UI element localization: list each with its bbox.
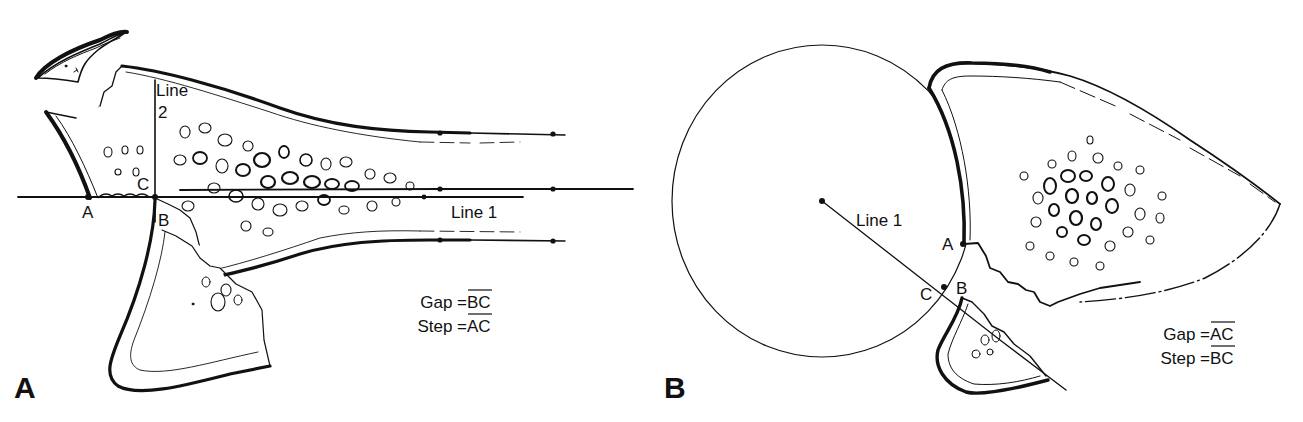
point-c-marker-b: [941, 284, 947, 290]
point-a-label: A: [82, 203, 94, 222]
bone-lower-fragment-b: [936, 298, 1048, 394]
point-b-label-b: B: [956, 279, 967, 298]
point-c-label-b: C: [920, 285, 932, 304]
line-2-label-top: Line: [156, 81, 188, 100]
bone-fragment-top: [36, 32, 127, 82]
panel-a: [18, 32, 633, 391]
step-segment-a: AC: [467, 317, 491, 336]
point-a-label-b: A: [942, 235, 954, 254]
line-1-label-a: Line 1: [451, 203, 497, 222]
bone-upper-fragment: [929, 63, 1280, 306]
equations-panel-a: Gap = BC Step = AC: [417, 290, 492, 336]
line-1-label-b: Line 1: [856, 211, 902, 230]
gap-segment-a: BC: [467, 293, 491, 312]
panel-a-label: A: [14, 371, 36, 404]
point-a-marker: [85, 194, 91, 200]
diagram-canvas: Line 2 Line 1 A C B Gap = BC Step = AC A: [0, 0, 1303, 422]
bone-left-fragment: [46, 106, 116, 198]
step-label-a: Step =: [417, 317, 467, 336]
circle-center-marker: [819, 198, 825, 204]
gap-label-b: Gap =: [1163, 325, 1210, 344]
point-a-marker-b: [960, 241, 966, 247]
point-c-marker: [152, 194, 158, 200]
point-c-label: C: [137, 175, 149, 194]
step-label-b: Step =: [1160, 349, 1210, 368]
gap-label-a: Gap =: [420, 293, 467, 312]
gap-segment-b: AC: [1210, 325, 1234, 344]
panel-b-label: B: [664, 371, 686, 404]
line-2-label-bottom: 2: [158, 103, 167, 122]
step-segment-b: BC: [1210, 349, 1234, 368]
point-b-label: B: [158, 211, 169, 230]
figure: Line 2 Line 1 A C B Gap = BC Step = AC A: [0, 0, 1303, 422]
equations-panel-b: Gap = AC Step = BC: [1160, 322, 1235, 368]
